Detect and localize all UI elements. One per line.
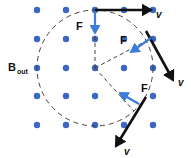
field-dot-out-of-page xyxy=(63,7,69,13)
force-label-lower-right: F xyxy=(141,82,148,94)
field-dot-out-of-page xyxy=(63,122,69,128)
field-dot-out-of-page xyxy=(92,122,98,128)
field-dot-out-of-page xyxy=(92,93,98,99)
field-dot-out-of-page xyxy=(34,93,40,99)
diagram-canvas: B out FvFvFv xyxy=(0,0,191,158)
magnetic-field-diagram: B out FvFvFv xyxy=(0,0,191,158)
b-field-label-text: B xyxy=(8,61,16,73)
force-label-upper-right: F xyxy=(120,34,127,46)
field-dot-out-of-page xyxy=(34,36,40,42)
b-field-label-subscript: out xyxy=(17,68,29,75)
field-dot-out-of-page xyxy=(150,93,156,99)
force-label-top: F xyxy=(76,20,83,32)
field-dot-out-of-page xyxy=(150,122,156,128)
field-dot-out-of-page xyxy=(34,7,40,13)
field-dot-out-of-page xyxy=(63,93,69,99)
field-dot-out-of-page xyxy=(121,65,127,71)
field-dot-out-of-page xyxy=(34,122,40,128)
field-dot-out-of-page xyxy=(63,65,69,71)
field-dot-out-of-page xyxy=(63,36,69,42)
